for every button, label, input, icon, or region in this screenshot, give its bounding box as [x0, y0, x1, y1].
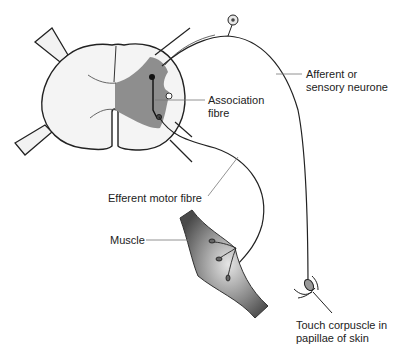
afferent-label-line2: sensory neurone	[306, 81, 388, 94]
reflex-arc-diagram	[0, 0, 398, 355]
afferent-label-line1: Afferent or	[306, 68, 357, 81]
muscle	[180, 210, 268, 318]
dorsal-root	[155, 28, 190, 55]
touch-label-line1: Touch corpuscle in	[296, 319, 387, 332]
efferent-label: Efferent motor fibre	[108, 192, 202, 205]
muscle-label: Muscle	[110, 234, 145, 247]
efferent-leader	[208, 157, 238, 196]
association-fibre-marker	[166, 93, 172, 99]
touch-label-line2: papillae of skin	[296, 332, 369, 345]
ventral-root	[170, 140, 192, 162]
association-label-line1: Association	[208, 94, 264, 107]
ganglion-nucleus	[231, 18, 235, 22]
ganglion-stalk	[228, 25, 232, 36]
association-label-line2: fibre	[208, 107, 229, 120]
touch-corpuscle	[294, 276, 332, 313]
sensory-synapse-dot	[149, 74, 155, 80]
